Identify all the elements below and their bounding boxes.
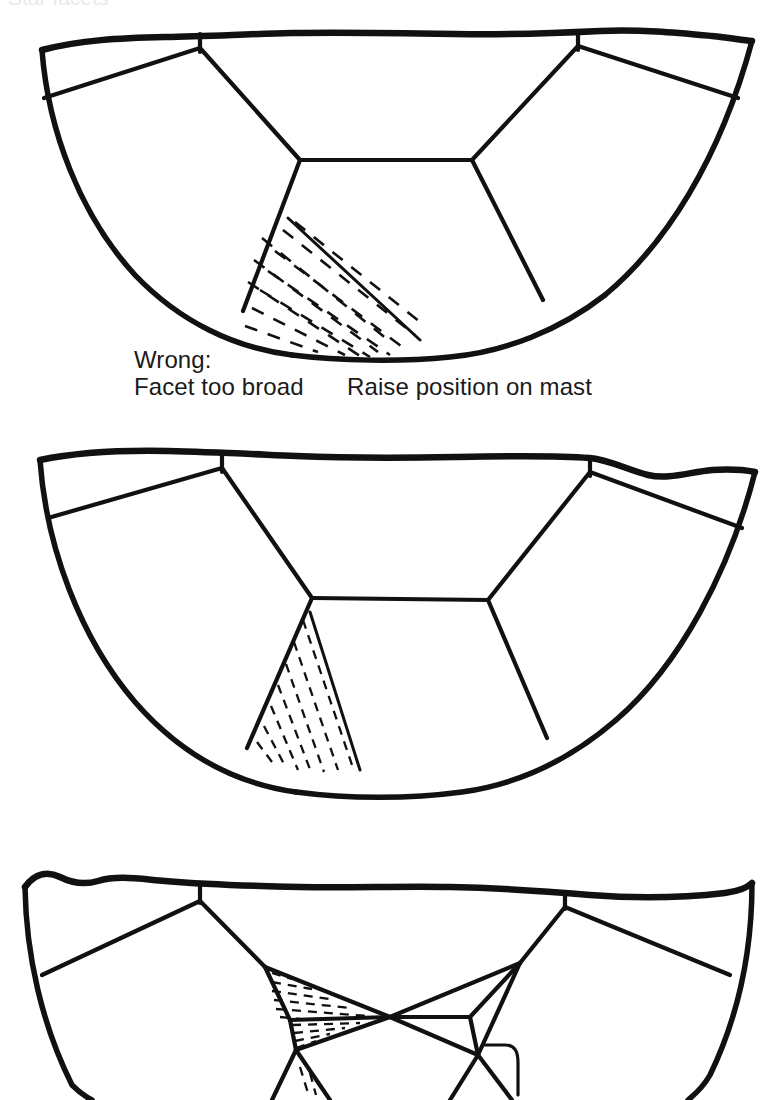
page-canvas: Star facets (0, 0, 775, 1100)
girdle-top-edge (42, 30, 752, 50)
star-facet-right-bottom (470, 1017, 478, 1055)
break-facet-right (590, 472, 742, 528)
crown-outline-bottom (296, 720, 616, 797)
break-facet-right (578, 46, 738, 98)
pavilion-main-right-2 (478, 1055, 512, 1100)
break-facet-left (44, 48, 200, 98)
crown-main-divider-right (520, 907, 565, 963)
table-edge (312, 598, 488, 600)
crown-main-divider-right (472, 46, 578, 160)
caption-1-correction: Raise position on mast (347, 372, 592, 401)
break-facet-right (565, 907, 730, 975)
crown-main-divider-left (222, 468, 312, 598)
hatched-facet-broad-edge (288, 218, 420, 340)
caption-1-line2: Facet too broad (134, 372, 304, 401)
star-facet-right-lower (470, 963, 520, 1017)
crown-outline-right (688, 883, 752, 1100)
main-facet-edge-right (488, 600, 547, 738)
crown-main-divider-left (200, 901, 265, 967)
star-facet-cross-center (390, 1017, 478, 1055)
caption-1-line1: Wrong: (134, 345, 212, 374)
figure-wrong-too-broad: Wrong: Facet too broad Raise position on… (0, 0, 775, 410)
figure-wrong-too-slim: Wrong: Facet too slim Lower position on … (0, 420, 775, 835)
table-edge-left (290, 1017, 390, 1020)
pavilion-main-right (450, 1055, 478, 1100)
pavilion-main-left (272, 1050, 296, 1100)
figure-3-svg (0, 845, 775, 1100)
crown-outline-bottom (292, 295, 605, 360)
crown-main-divider-left (200, 48, 300, 160)
girdle-top-edge (40, 451, 755, 477)
hatched-star-facet-lower (292, 1023, 360, 1048)
crown-outline-left (25, 887, 92, 1100)
girdle-top-edge (25, 874, 752, 897)
star-facet-cross-left (296, 1017, 390, 1050)
figure-correct-star-facets: Star facets: Cut 1/2 of corner Cut 2/3 o… (0, 845, 775, 1100)
figure-2-svg (0, 420, 775, 835)
pavilion-main-left-2 (296, 1050, 330, 1100)
main-facet-edge-right (472, 160, 543, 300)
crown-main-divider-right (488, 472, 590, 600)
figure-1-svg (0, 0, 775, 410)
break-facet-left (42, 901, 200, 975)
hatched-facet-slim-edge (310, 612, 360, 770)
break-facet-left (48, 468, 222, 518)
